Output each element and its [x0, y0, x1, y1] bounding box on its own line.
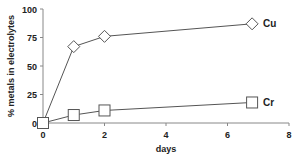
square-marker: [247, 97, 258, 108]
chart-container: 025507510002468 CuCr days % metals in el…: [0, 0, 294, 167]
diamond-marker: [99, 30, 111, 42]
x-tick-label: 6: [225, 130, 230, 140]
x-tick-label: 0: [40, 130, 45, 140]
square-marker: [99, 105, 110, 116]
series-layer: CuCr: [37, 18, 276, 129]
y-tick-label: 100: [22, 5, 37, 15]
diamond-marker: [68, 41, 80, 53]
x-tick-label: 2: [102, 130, 107, 140]
diamond-marker: [246, 18, 258, 30]
y-tick-label: 50: [27, 62, 37, 72]
y-tick-label: 0: [32, 119, 37, 129]
square-marker: [68, 110, 79, 121]
legend-label-cr: Cr: [263, 97, 274, 108]
x-tick-label: 4: [163, 130, 168, 140]
square-marker: [38, 118, 49, 129]
x-tick-label: 8: [286, 130, 291, 140]
x-axis-label: days: [156, 144, 177, 154]
legend-label-cu: Cu: [263, 18, 276, 29]
series-cr: Cr: [38, 97, 275, 129]
y-axis-label: % metals in electrolytes: [6, 15, 16, 117]
y-tick-label: 25: [27, 90, 37, 100]
line-chart: 025507510002468 CuCr days % metals in el…: [0, 0, 294, 167]
y-tick-label: 75: [27, 33, 37, 43]
